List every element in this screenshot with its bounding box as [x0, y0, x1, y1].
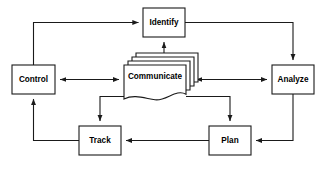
edge-analyze-to-plan	[256, 94, 293, 141]
edge-communicate-to-plan	[186, 97, 230, 122]
node-track[interactable]: Track	[79, 126, 121, 155]
edge-control-to-identify	[34, 23, 139, 66]
edge-identify-to-analyze	[185, 23, 293, 61]
communicate-sheet-1	[124, 65, 186, 100]
node-identify-label: Identify	[149, 18, 179, 27]
node-analyze-label: Analyze	[278, 75, 309, 84]
node-identify[interactable]: Identify	[143, 8, 185, 37]
edge-track-to-control	[34, 99, 80, 141]
node-analyze[interactable]: Analyze	[272, 65, 314, 94]
node-plan-label: Plan	[221, 136, 238, 145]
node-communicate[interactable]: Communicate	[124, 53, 198, 100]
node-plan[interactable]: Plan	[209, 126, 251, 155]
node-track-label: Track	[89, 136, 111, 145]
node-control[interactable]: Control	[12, 65, 55, 94]
process-cycle-diagram: Identify Control Communicate Analyze Tra…	[0, 0, 328, 171]
edge-communicate-to-track	[100, 97, 124, 122]
diagram-canvas: Identify Control Communicate Analyze Tra…	[0, 0, 328, 171]
node-control-label: Control	[19, 75, 48, 84]
node-communicate-label: Communicate	[128, 72, 183, 81]
